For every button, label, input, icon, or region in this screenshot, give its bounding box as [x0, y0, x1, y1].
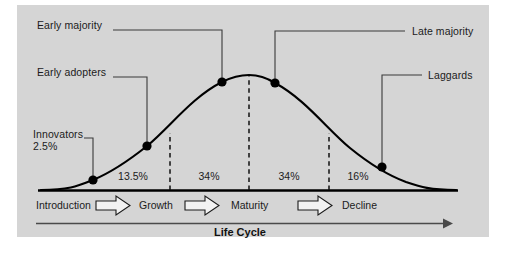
segment-percent-late-majority: 34%: [268, 170, 310, 182]
diffusion-curve-figure: Early majority Early adopters Innovators…: [0, 0, 506, 254]
stage-label-decline: Decline: [342, 199, 377, 211]
stage-label-introduction: Introduction: [36, 199, 91, 211]
callout-label-laggards: Laggards: [428, 69, 473, 81]
callout-label-early-majority: Early majority: [37, 19, 102, 31]
segment-percent-laggards: 16%: [337, 170, 379, 182]
segment-percent-early-adopters: 13.5%: [110, 170, 156, 182]
stage-label-growth: Growth: [139, 199, 173, 211]
callout-label-late-majority: Late majority: [412, 25, 473, 37]
lifecycle-axis-title: Life Cycle: [214, 226, 266, 238]
callout-label-innovators-percent: 2.5%: [33, 140, 57, 152]
callout-label-early-adopters: Early adopters: [37, 66, 106, 78]
segment-percent-early-majority: 34%: [188, 170, 230, 182]
stage-label-maturity: Maturity: [231, 199, 268, 211]
callout-label-innovators: Innovators: [33, 128, 83, 141]
